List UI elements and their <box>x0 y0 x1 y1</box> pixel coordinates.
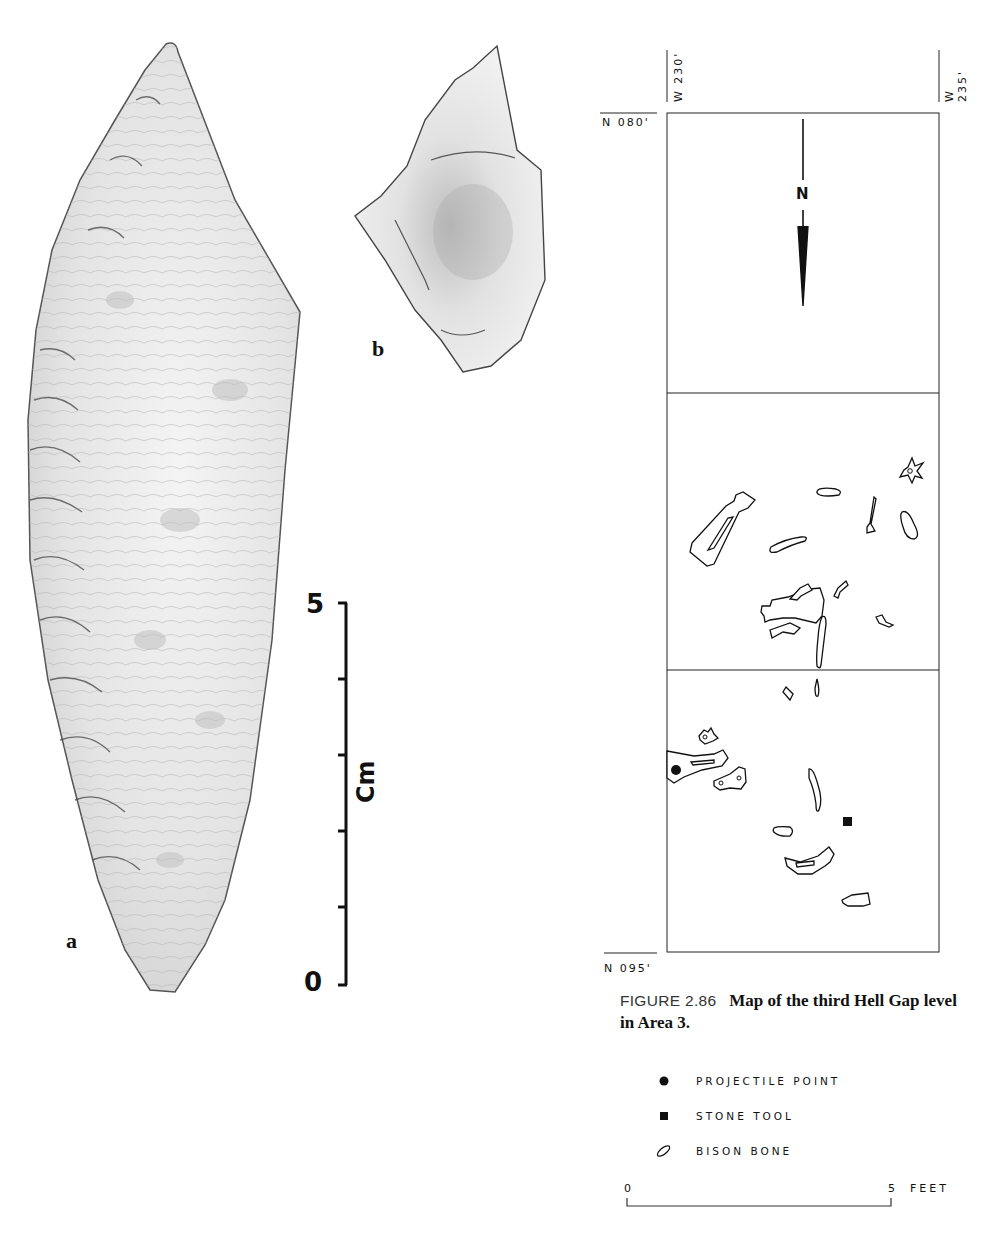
excavation-map: W 230' W 235' N 080' N 095' <box>590 40 987 960</box>
stone-tool-marker <box>843 817 852 826</box>
figure-number: FIGURE 2.86 <box>620 992 716 1009</box>
legend-label: BISON BONE <box>696 1145 792 1157</box>
north-arrow-icon <box>798 119 808 306</box>
artifact-a-label: a <box>66 928 77 954</box>
row-label-n095: N 095' <box>604 962 652 975</box>
artifact-b-illustration: b <box>345 40 560 380</box>
filled-circle-icon <box>658 1075 670 1087</box>
projectile-point-marker <box>671 765 681 775</box>
scale-bottom-label: 0 <box>304 967 322 997</box>
legend-item-bison-bone: BISON BONE <box>650 1141 950 1161</box>
filled-square-icon <box>658 1110 670 1122</box>
legend-label: STONE TOOL <box>696 1110 794 1122</box>
legend-item-stone-tool: STONE TOOL <box>650 1106 950 1126</box>
feet-scale-bar: 0 5 FEET <box>620 1182 980 1222</box>
bone-outline-icon <box>655 1144 673 1158</box>
artifact-a-illustration: a <box>0 0 330 1000</box>
legend-item-projectile-point: PROJECTILE POINT <box>650 1071 950 1091</box>
scale-top-label: 5 <box>306 589 324 619</box>
scale-unit-label: Cm <box>352 760 380 803</box>
feet-scale-end: 5 <box>888 1182 898 1195</box>
artifact-b-label: b <box>372 336 384 362</box>
figure-caption: FIGURE 2.86 Map of the third Hell Gap le… <box>620 990 960 1034</box>
feet-scale-start: 0 <box>624 1182 634 1195</box>
bison-bone-cluster-cell-3 <box>667 679 870 906</box>
bison-bone-cluster-cell-2 <box>690 458 923 668</box>
legend-label: PROJECTILE POINT <box>696 1075 840 1087</box>
north-arrow-label: N <box>796 185 809 203</box>
map-grid <box>590 40 987 960</box>
feet-scale-line <box>620 1196 910 1210</box>
feet-scale-unit: FEET <box>910 1182 949 1195</box>
flake-drawing <box>345 40 560 380</box>
cm-scale-bar: 5 0 Cm <box>300 595 380 995</box>
flaked-blade-drawing <box>0 0 330 1000</box>
map-legend: PROJECTILE POINT STONE TOOL BISON BONE <box>650 1071 950 1176</box>
